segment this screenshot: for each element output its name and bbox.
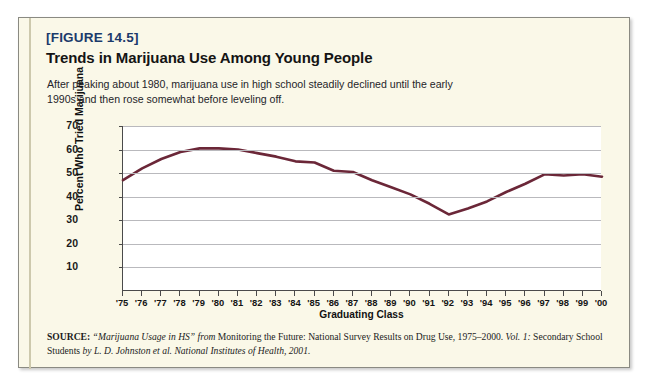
y-tick-mark <box>119 267 123 268</box>
figure-title: Trends in Marijuana Use Among Young Peop… <box>46 49 372 66</box>
chart: Percent Who Tried Marijuana 102030405060… <box>62 121 622 321</box>
plot-area <box>122 126 601 291</box>
x-tick-mark <box>409 291 410 296</box>
source-note: SOURCE: “Marijuana Usage in HS” from Mon… <box>47 330 612 357</box>
y-tick-label: 60 <box>56 143 78 155</box>
gridline <box>123 173 601 174</box>
gridline <box>123 244 601 245</box>
y-tick-label: 20 <box>56 237 78 249</box>
gridline <box>123 126 601 127</box>
source-from-word: from <box>198 331 216 342</box>
x-tick-mark <box>179 291 180 296</box>
gridline <box>123 197 601 198</box>
y-tick-mark <box>119 197 123 198</box>
gridline <box>123 220 601 221</box>
x-tick-mark <box>218 291 219 296</box>
x-tick-mark <box>486 291 487 296</box>
x-tick-mark <box>275 291 276 296</box>
figure-caption: After peaking about 1980, marijuana use … <box>47 77 477 107</box>
x-tick-mark <box>294 291 295 296</box>
x-axis-title: Graduating Class <box>122 309 601 320</box>
source-by-word: by <box>82 345 91 356</box>
x-tick-mark <box>524 291 525 296</box>
x-tick-mark <box>390 291 391 296</box>
line-series <box>123 126 602 291</box>
x-tick-mark <box>467 291 468 296</box>
source-authors: L. D. Johnston et al. National Institute… <box>94 345 310 356</box>
y-tick-label: 40 <box>56 190 78 202</box>
y-tick-mark <box>119 244 123 245</box>
gridline <box>123 150 601 151</box>
x-tick-mark <box>371 291 372 296</box>
source-quoted-title: “Marijuana Usage in HS” <box>93 331 196 342</box>
x-tick-mark <box>333 291 334 296</box>
x-tick-mark <box>582 291 583 296</box>
gridline <box>123 267 601 268</box>
y-tick-label: 70 <box>56 119 78 131</box>
y-tick-mark <box>119 220 123 221</box>
source-volume: Vol. 1: <box>506 331 531 342</box>
x-tick-mark <box>237 291 238 296</box>
source-publication: Monitoring the Future: National Survey R… <box>218 331 503 342</box>
x-tick-mark <box>505 291 506 296</box>
x-tick-mark <box>122 291 123 296</box>
figure-page: [FIGURE 14.5] Trends in Marijuana Use Am… <box>0 0 671 382</box>
x-tick-mark <box>544 291 545 296</box>
x-tick-mark <box>563 291 564 296</box>
figure-panel: [FIGURE 14.5] Trends in Marijuana Use Am… <box>18 17 630 368</box>
figure-number-label: [FIGURE 14.5] <box>46 30 139 45</box>
x-tick-mark <box>429 291 430 296</box>
y-tick-mark <box>119 150 123 151</box>
y-tick-mark <box>119 173 123 174</box>
x-tick-mark <box>141 291 142 296</box>
y-tick-mark <box>119 126 123 127</box>
source-label: SOURCE: <box>47 331 90 342</box>
x-tick-mark <box>352 291 353 296</box>
x-tick-mark <box>448 291 449 296</box>
x-tick-mark <box>160 291 161 296</box>
x-tick-mark <box>601 291 602 296</box>
x-tick-mark <box>314 291 315 296</box>
y-tick-label: 30 <box>56 213 78 225</box>
y-tick-label: 10 <box>56 260 78 272</box>
x-tick-mark <box>256 291 257 296</box>
left-accent-rule <box>29 18 31 369</box>
x-tick-mark <box>199 291 200 296</box>
y-tick-label: 50 <box>56 166 78 178</box>
x-tick-label: '00 <box>588 297 614 308</box>
